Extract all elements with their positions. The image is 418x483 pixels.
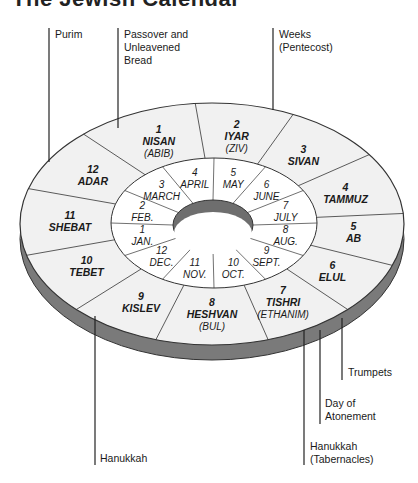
hebrew-month-name: ELUL: [319, 271, 346, 283]
gregorian-month-number: 11: [190, 257, 200, 268]
gregorian-month-name: SEPT.: [252, 257, 280, 268]
hebrew-month-number: 1: [156, 123, 162, 135]
hebrew-month-name: TAMMUZ: [323, 193, 368, 205]
festival-label-weeks: Weeks (Pentecost): [279, 28, 333, 54]
gregorian-month-name: JAN.: [131, 236, 154, 247]
hebrew-month-number: 2: [233, 118, 240, 130]
hole-opening: [174, 212, 252, 254]
gregorian-month-number: 7: [283, 200, 289, 211]
gregorian-month-name: NOV.: [183, 269, 207, 280]
hebrew-month-number: 5: [351, 220, 357, 232]
hebrew-month-number: 9: [138, 290, 144, 302]
gregorian-month-number: 5: [230, 167, 236, 178]
gregorian-month-name: OCT.: [222, 269, 245, 280]
gregorian-month-number: 12: [156, 245, 168, 256]
hebrew-month-name: IYAR: [225, 130, 250, 142]
hebrew-month-name: KISLEV: [122, 302, 161, 314]
gregorian-month-name: JULY: [273, 212, 299, 223]
hebrew-month-number: 11: [65, 209, 76, 221]
festival-label-trumpets: Trumpets: [348, 366, 392, 379]
gregorian-month-name: FEB.: [131, 212, 153, 223]
festival-label-purim: Purim: [55, 28, 82, 41]
hebrew-month-alt-name: (ABIB): [144, 148, 173, 159]
gregorian-month-name: MARCH: [143, 191, 180, 202]
hebrew-month-alt-name: (ETHANIM): [257, 309, 309, 320]
festival-label-hanukkah: Hanukkah: [100, 452, 147, 465]
hebrew-month-alt-name: (BUL): [199, 321, 225, 332]
hebrew-month-name: HESHVAN: [187, 308, 238, 320]
hebrew-month-name: SHEBAT: [49, 221, 93, 233]
festival-label-atonement: Day of Atonement: [325, 397, 376, 423]
gregorian-month-name: MAY: [223, 179, 245, 190]
gregorian-month-number: 8: [283, 224, 289, 235]
hebrew-month-alt-name: (ZIV): [226, 143, 248, 154]
hebrew-month-name: TISHRI: [266, 296, 302, 308]
gregorian-month-name: AUG.: [272, 236, 297, 247]
hebrew-month-number: 4: [342, 181, 349, 193]
gregorian-month-name: JUNE: [252, 191, 279, 202]
hebrew-month-name: SIVAN: [288, 155, 320, 167]
gregorian-month-number: 6: [264, 179, 270, 190]
festival-label-passover: Passover and Unleavened Bread: [124, 28, 188, 67]
hebrew-month-name: NISAN: [142, 135, 175, 147]
hebrew-month-name: AB: [345, 232, 362, 244]
festival-label-tabernacles: Hanukkah (Tabernacles): [310, 440, 374, 466]
hebrew-month-number: 3: [300, 143, 306, 155]
gregorian-month-number: 10: [228, 257, 240, 268]
hebrew-month-name: ADAR: [77, 175, 109, 187]
center-hole: [173, 200, 253, 254]
hebrew-month-number: 6: [330, 259, 336, 271]
gregorian-month-number: 2: [139, 200, 146, 211]
gregorian-month-number: 4: [192, 167, 198, 178]
gregorian-month-name: DEC.: [150, 257, 174, 268]
gregorian-month-number: 3: [159, 179, 165, 190]
gregorian-month-number: 1: [140, 224, 146, 235]
gregorian-month-number: 9: [264, 245, 270, 256]
hebrew-month-number: 10: [81, 254, 93, 266]
hebrew-month-number: 8: [209, 296, 215, 308]
hebrew-month-number: 12: [87, 163, 99, 175]
hebrew-month-name: TEBET: [69, 266, 105, 278]
gregorian-month-name: APRIL: [179, 179, 209, 190]
